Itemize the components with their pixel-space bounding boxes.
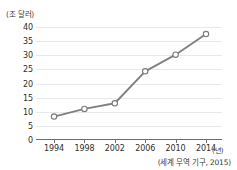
- y-axis-tick-label: 35: [3, 37, 33, 46]
- data-point-marker: [203, 31, 208, 36]
- x-axis-unit-label: (년): [212, 145, 223, 155]
- data-point-marker: [82, 106, 87, 111]
- chart-figure: (조 달러) 0510152025303540 1994199820022006…: [0, 0, 237, 170]
- data-point-marker: [173, 52, 178, 57]
- data-point-marker: [112, 101, 117, 106]
- x-axis-tick-label: 1994: [44, 144, 64, 153]
- y-axis-tick-label: 5: [3, 121, 33, 130]
- x-axis-tick-label: 2006: [135, 144, 155, 153]
- x-axis-tick-mark: [176, 140, 177, 143]
- x-axis-tick-label: 1998: [74, 144, 94, 153]
- y-axis-tick-label: 10: [3, 107, 33, 116]
- y-axis-tick-label: 30: [3, 51, 33, 60]
- y-axis-tick-label: 15: [3, 93, 33, 102]
- x-axis-tick-labels: 199419982002200620102014: [36, 144, 226, 156]
- data-point-marker: [143, 69, 148, 74]
- y-axis-tick-label: 20: [3, 79, 33, 88]
- x-axis-tick-label: 2002: [105, 144, 125, 153]
- x-axis-tick-mark: [145, 140, 146, 143]
- line-series: [36, 27, 222, 140]
- plot-area: [36, 27, 222, 140]
- data-point-marker: [51, 114, 56, 119]
- x-axis-tick-label: 2010: [166, 144, 186, 153]
- series-line: [54, 34, 206, 116]
- source-note: (세계 무역 기구, 2015): [158, 156, 231, 167]
- x-axis-tick-mark: [206, 140, 207, 143]
- y-axis-unit-label: (조 달러): [6, 8, 34, 19]
- y-axis-tick-label: 0: [3, 136, 33, 145]
- y-axis-tick-labels: 0510152025303540: [0, 27, 33, 140]
- y-axis-tick-label: 25: [3, 65, 33, 74]
- y-axis-tick-label: 40: [3, 23, 33, 32]
- x-axis-tick-mark: [84, 140, 85, 143]
- x-axis-tick-mark: [54, 140, 55, 143]
- x-axis-tick-mark: [115, 140, 116, 143]
